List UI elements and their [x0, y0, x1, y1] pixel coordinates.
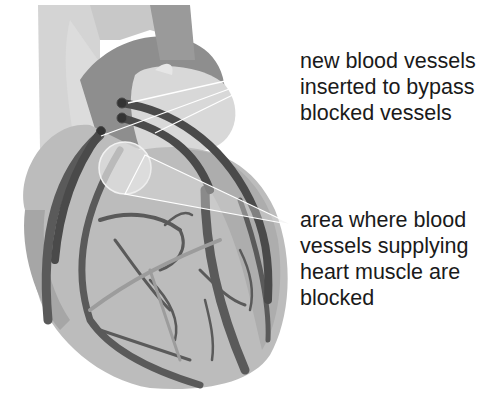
label-blocked-area: area where blood vessels supplying heart…: [300, 207, 469, 311]
label-line: area where blood: [300, 207, 469, 233]
label-line: vessels supplying: [300, 233, 469, 259]
label-line: inserted to bypass: [300, 74, 476, 100]
label-line: blocked: [300, 285, 469, 311]
label-bypass-vessels: new blood vessels inserted to bypass blo…: [300, 48, 476, 126]
label-line: blocked vessels: [300, 100, 476, 126]
label-line: new blood vessels: [300, 48, 476, 74]
label-line: heart muscle are: [300, 259, 469, 285]
